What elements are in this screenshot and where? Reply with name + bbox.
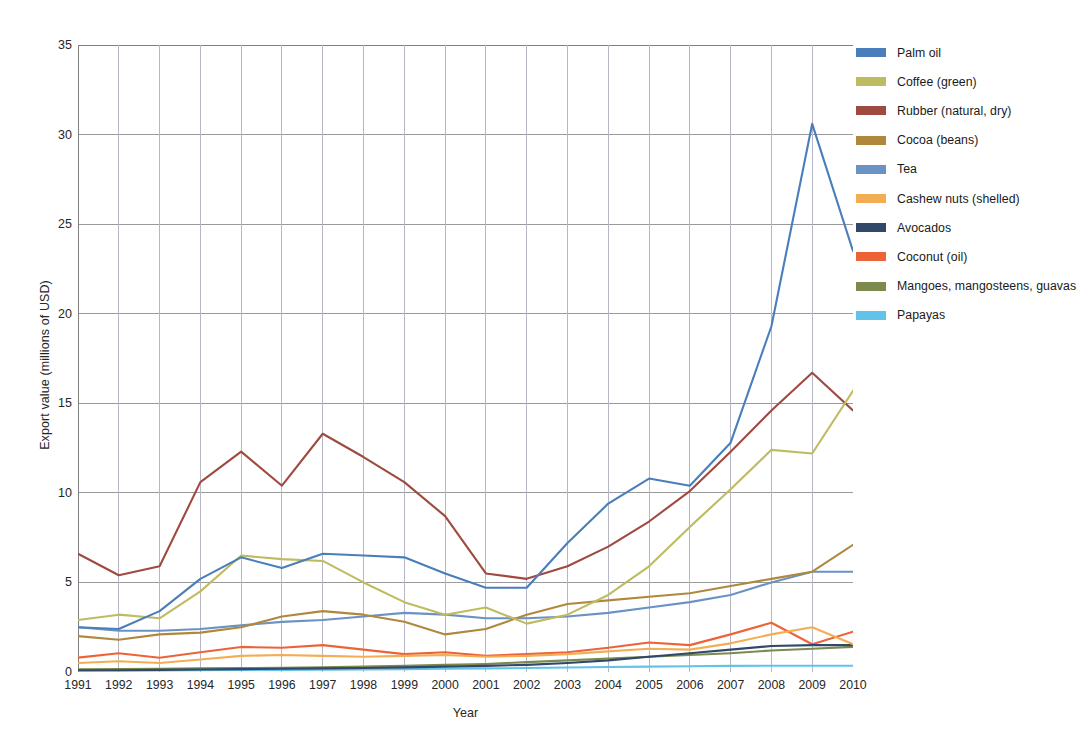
legend-item-label: Cashew nuts (shelled) (897, 192, 1020, 206)
x-tick-label: 1992 (105, 678, 132, 692)
legend-item[interactable]: Tea (856, 155, 1088, 184)
legend-item[interactable]: Mangoes, mangosteens, guavas (856, 272, 1088, 301)
legend-swatch-icon (856, 136, 886, 145)
legend-item[interactable]: Avocados (856, 213, 1088, 242)
x-tick-label: 1995 (227, 678, 254, 692)
legend-item-label: Mangoes, mangosteens, guavas (897, 279, 1076, 293)
legend-swatch-icon (856, 165, 886, 174)
x-tick-label: 2000 (431, 678, 458, 692)
x-tick-label: 1991 (64, 678, 91, 692)
legend-item-label: Cocoa (beans) (897, 133, 978, 147)
legend-item[interactable]: Palm oil (856, 38, 1088, 67)
legend-swatch-icon (856, 77, 886, 86)
x-tick-label: 2008 (758, 678, 785, 692)
legend-swatch-icon (856, 106, 886, 115)
legend-item-label: Papayas (897, 308, 945, 322)
y-axis-tick-labels: 05101520253035 (20, 45, 72, 672)
x-tick-label: 2007 (717, 678, 744, 692)
legend-swatch-icon (856, 194, 886, 203)
legend-item-label: Rubber (natural, dry) (897, 104, 1012, 118)
y-tick-label: 20 (32, 307, 72, 321)
legend-item[interactable]: Coconut (oil) (856, 242, 1088, 271)
plot-area (78, 45, 853, 672)
x-tick-label: 1994 (187, 678, 214, 692)
y-tick-label: 0 (32, 665, 72, 679)
legend-item-label: Coconut (oil) (897, 250, 967, 264)
legend-swatch-icon (856, 282, 886, 291)
x-tick-label: 2010 (839, 678, 866, 692)
chart-legend: Palm oilCoffee (green)Rubber (natural, d… (856, 38, 1088, 330)
line-chart: Export value (millions of USD) 051015202… (0, 0, 1091, 744)
x-tick-label: 2003 (554, 678, 581, 692)
y-tick-label: 15 (32, 396, 72, 410)
x-tick-label: 2001 (472, 678, 499, 692)
legend-swatch-icon (856, 311, 886, 320)
y-tick-label: 30 (32, 128, 72, 142)
y-tick-label: 25 (32, 217, 72, 231)
legend-item[interactable]: Cashew nuts (shelled) (856, 184, 1088, 213)
legend-item[interactable]: Rubber (natural, dry) (856, 96, 1088, 125)
x-tick-label: 1999 (391, 678, 418, 692)
x-tick-label: 2002 (513, 678, 540, 692)
legend-swatch-icon (856, 48, 886, 57)
legend-item-label: Coffee (green) (897, 75, 977, 89)
legend-item[interactable]: Cocoa (beans) (856, 126, 1088, 155)
x-tick-label: 2005 (635, 678, 662, 692)
y-tick-label: 10 (32, 486, 72, 500)
series-line (78, 124, 853, 629)
legend-item-label: Tea (897, 162, 917, 176)
x-axis-title: Year (78, 706, 853, 720)
legend-swatch-icon (856, 252, 886, 261)
x-tick-label: 1997 (309, 678, 336, 692)
legend-item-label: Palm oil (897, 46, 941, 60)
x-axis-tick-labels: 1991199219931994199519961997199819992000… (78, 678, 853, 698)
y-tick-label: 35 (32, 38, 72, 52)
legend-swatch-icon (856, 223, 886, 232)
legend-item-label: Avocados (897, 221, 951, 235)
plot-svg (78, 45, 853, 672)
x-tick-label: 2006 (676, 678, 703, 692)
legend-item[interactable]: Papayas (856, 301, 1088, 330)
y-tick-label: 5 (32, 575, 72, 589)
x-tick-label: 2009 (799, 678, 826, 692)
x-tick-label: 1996 (268, 678, 295, 692)
legend-item[interactable]: Coffee (green) (856, 67, 1088, 96)
x-tick-label: 2004 (595, 678, 622, 692)
x-tick-label: 1998 (350, 678, 377, 692)
x-tick-label: 1993 (146, 678, 173, 692)
